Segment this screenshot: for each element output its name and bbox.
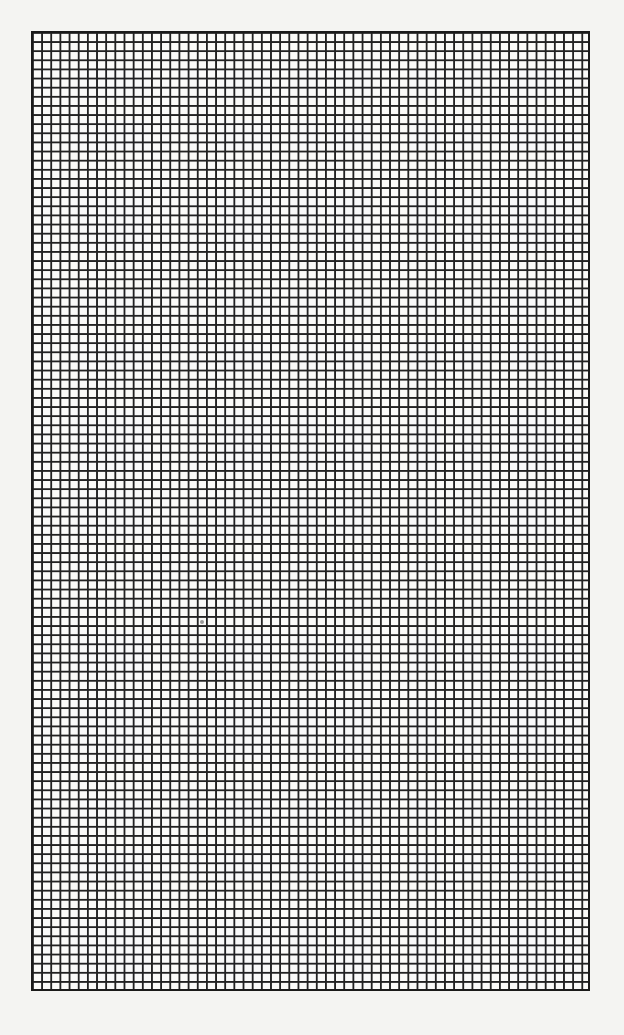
graph-paper-grid (31, 31, 590, 991)
paper-speck (200, 620, 204, 624)
